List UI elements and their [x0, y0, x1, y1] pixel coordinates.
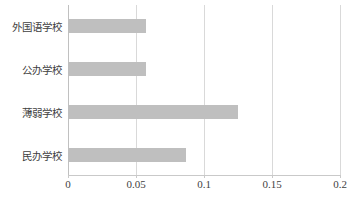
bar-minban	[68, 148, 186, 162]
x-axis-label-0.15: 0.15	[262, 178, 281, 190]
x-axis-label-0: 0	[65, 178, 71, 190]
bar-row	[68, 105, 340, 119]
bar-waiguoyu	[68, 19, 146, 33]
bar-row	[68, 148, 340, 162]
y-axis-label-minban: 民办学校	[0, 148, 62, 163]
bar-row	[68, 19, 340, 33]
gridline-0.2	[340, 5, 341, 175]
y-axis-label-gongban: 公办学校	[0, 62, 62, 77]
y-axis-label-waiguoyu: 外国语学校	[0, 19, 62, 34]
bar-baoruo	[68, 105, 238, 119]
x-axis-labels: 0 0.05 0.1 0.15 0.2	[0, 178, 355, 200]
bar-chart: 外国语学校 公办学校 薄弱学校 民办学校 0 0.05 0.1 0.15 0.2	[0, 0, 355, 203]
x-axis-label-0.05: 0.05	[126, 178, 145, 190]
bar-gongban	[68, 62, 146, 76]
x-axis-label-0.2: 0.2	[333, 178, 347, 190]
y-axis-labels: 外国语学校 公办学校 薄弱学校 民办学校	[0, 0, 64, 203]
x-axis-label-0.1: 0.1	[197, 178, 211, 190]
y-axis-label-baoruo: 薄弱学校	[0, 105, 62, 120]
bar-row	[68, 62, 340, 76]
